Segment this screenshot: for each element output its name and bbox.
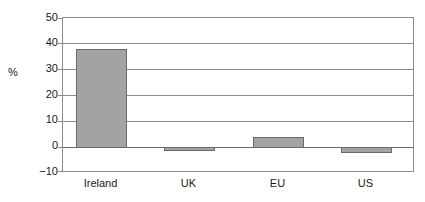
y-tick-label-30: 30 [24,63,58,74]
bar-chart-figure: % 50 40 30 20 10 0 −10 Irelan [0,0,425,202]
bar-eu [253,137,304,148]
bar-uk [164,147,215,151]
x-tick-label-eu: EU [252,178,303,189]
bar-ireland [76,49,127,148]
y-tick-mark-0 [58,147,63,148]
y-axis-title: % [8,66,18,78]
y-tick-mark-10 [58,121,63,122]
y-tick-label-10: 10 [24,114,58,125]
y-tick-mark-minus-10 [58,171,63,172]
y-tick-mark-50 [58,18,63,19]
y-tick-label-40: 40 [24,37,58,48]
y-tick-mark-20 [58,95,63,96]
x-tick-label-uk: UK [163,178,214,189]
y-tick-label-minus-10: −10 [24,166,58,177]
y-tick-label-0: 0 [24,140,58,151]
y-axis-tick-labels: 50 40 30 20 10 0 −10 [24,0,58,202]
y-tick-label-50: 50 [24,12,58,23]
x-axis-tick-labels: Ireland UK EU US [62,178,414,196]
gridline-40 [63,43,413,44]
y-tick-label-20: 20 [24,89,58,100]
y-tick-mark-30 [58,69,63,70]
x-tick-label-ireland: Ireland [75,178,126,189]
bar-us [341,147,392,153]
x-tick-label-us: US [340,178,391,189]
plot-area [62,17,414,172]
y-tick-mark-40 [58,43,63,44]
